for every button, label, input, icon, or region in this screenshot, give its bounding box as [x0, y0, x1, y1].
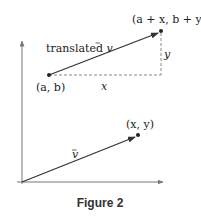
tip-point-label: (x, y) [126, 118, 154, 131]
x-component-label: x [101, 80, 108, 93]
y-component-label: y [163, 48, 171, 61]
translated-vector-label: translated v [46, 42, 114, 55]
start-point-dot [47, 73, 51, 77]
vector-v-arrow [22, 137, 135, 182]
tip-point-dot [136, 133, 140, 137]
end-point-dot [159, 29, 163, 33]
end-point-label: (a + x, b + y) [132, 13, 201, 26]
figure-caption: Figure 2 [77, 196, 124, 210]
start-point-label: (a, b) [36, 81, 65, 94]
vector-translation-diagram: (a + x, b + y) translated v y (a, b) x v… [0, 0, 201, 216]
